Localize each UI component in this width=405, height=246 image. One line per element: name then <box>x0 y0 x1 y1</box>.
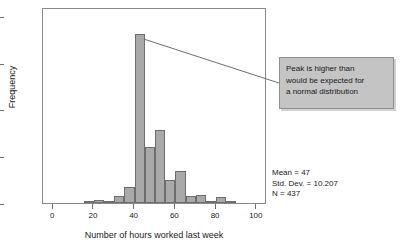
plot-area <box>43 9 265 203</box>
histogram-bar <box>104 201 114 203</box>
histogram-bar <box>196 195 206 203</box>
y-tick-mark <box>0 17 4 18</box>
histogram-bar <box>226 201 236 203</box>
y-tick-mark <box>0 110 4 111</box>
histogram-bar <box>186 196 196 203</box>
x-axis: 020406080100 Number of hours worked last… <box>0 204 405 246</box>
x-tick-mark <box>133 204 134 209</box>
histogram-bar <box>165 180 175 203</box>
stats-std-dev: Std. Dev. = 10.207 <box>272 179 338 190</box>
y-axis-title: Frequency <box>7 47 17 127</box>
x-tick-mark <box>215 204 216 209</box>
peak-annotation-callout: Peak is higher than would be expected fo… <box>279 57 394 109</box>
stats-mean: Mean = 47 <box>272 168 338 179</box>
histogram-bar <box>135 34 145 203</box>
x-tick-mark <box>174 204 175 209</box>
histogram-bar <box>94 200 104 203</box>
x-tick-label: 100 <box>249 210 262 221</box>
x-tick-label: 60 <box>170 210 179 221</box>
x-tick-label: 0 <box>50 210 54 221</box>
histogram-bar <box>84 201 94 203</box>
histogram-bar <box>175 171 185 203</box>
histogram-bar <box>206 201 216 203</box>
x-tick-label: 20 <box>88 210 97 221</box>
x-tick-label: 80 <box>211 210 220 221</box>
plot-frame <box>42 8 266 204</box>
y-tick-mark <box>0 64 4 65</box>
x-tick-mark <box>52 204 53 209</box>
histogram-bar <box>216 197 226 203</box>
x-tick-mark <box>92 204 93 209</box>
histogram-bar <box>155 130 165 203</box>
x-tick-label: 40 <box>129 210 138 221</box>
histogram-bar <box>124 187 134 203</box>
x-axis-title: Number of hours worked last week <box>42 230 266 240</box>
histogram-screenshot: 050100150200 Frequency 020406080100 Numb… <box>0 0 405 246</box>
peak-annotation-text: Peak is higher than would be expected fo… <box>286 63 387 98</box>
y-tick-mark <box>0 157 4 158</box>
x-tick-mark <box>255 204 256 209</box>
histogram-bar <box>145 147 155 203</box>
stats-n: N = 437 <box>272 189 338 200</box>
histogram-bar <box>114 196 124 203</box>
stats-block: Mean = 47 Std. Dev. = 10.207 N = 437 <box>272 168 338 200</box>
